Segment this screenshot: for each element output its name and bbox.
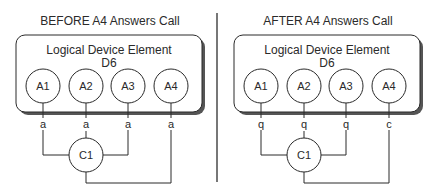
panel-title: AFTER A4 Answers Call <box>263 14 392 28</box>
diagram-canvas: BEFORE A4 Answers Call Logical Device El… <box>0 0 436 192</box>
svg-text:C1: C1 <box>79 149 93 161</box>
svg-text:A1: A1 <box>36 80 49 92</box>
node-a4: A4 <box>154 69 188 103</box>
connector-c1: C1 <box>287 138 321 172</box>
svg-text:A1: A1 <box>254 80 267 92</box>
node-a2: A2 <box>287 69 321 103</box>
box-sublabel: D6 <box>319 56 335 70</box>
state-label-a3: a <box>125 118 132 130</box>
state-label-a1: a <box>40 118 47 130</box>
svg-text:A3: A3 <box>121 80 134 92</box>
panel-title: BEFORE A4 Answers Call <box>40 14 179 28</box>
svg-text:C1: C1 <box>297 149 311 161</box>
box-sublabel: D6 <box>101 56 117 70</box>
svg-text:A3: A3 <box>339 80 352 92</box>
node-a1: A1 <box>26 69 60 103</box>
node-a3: A3 <box>111 69 145 103</box>
svg-text:A4: A4 <box>382 80 395 92</box>
panel-before: BEFORE A4 Answers Call Logical Device El… <box>16 14 205 183</box>
state-label-a4: a <box>168 118 175 130</box>
connector-c1: C1 <box>69 138 103 172</box>
svg-text:A2: A2 <box>79 80 92 92</box>
panel-after: AFTER A4 Answers Call Logical Device Ele… <box>234 14 423 183</box>
state-label-a2: a <box>83 118 90 130</box>
node-a4: A4 <box>372 69 406 103</box>
state-label-a1: q <box>258 118 264 130</box>
svg-text:A4: A4 <box>164 80 177 92</box>
box-label: Logical Device Element <box>264 43 390 57</box>
state-label-a3: q <box>343 118 349 130</box>
node-a3: A3 <box>329 69 363 103</box>
node-a1: A1 <box>244 69 278 103</box>
svg-text:A2: A2 <box>297 80 310 92</box>
state-label-a2: q <box>301 118 307 130</box>
state-label-a4: c <box>386 118 392 130</box>
box-label: Logical Device Element <box>46 43 172 57</box>
node-a2: A2 <box>69 69 103 103</box>
